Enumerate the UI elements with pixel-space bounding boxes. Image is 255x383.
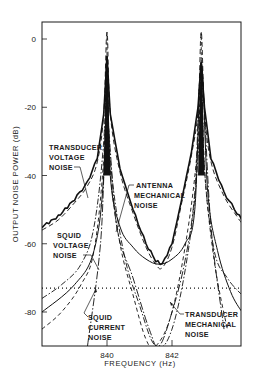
svg-text:NOISE: NOISE xyxy=(49,163,73,172)
svg-text:MECHANICAL: MECHANICAL xyxy=(134,191,186,200)
y-axis: 0-20-40-60-80 xyxy=(24,35,47,317)
y-tick-label: -20 xyxy=(24,103,36,112)
annotation-transducer-mechanical-noise: TRANSDUCER MECHANICAL NOISE xyxy=(170,302,239,339)
resonance-peak xyxy=(104,59,110,175)
noise-spectrum-chart: 0-20-40-60-80 840842 OUTPUT NOISE POWER … xyxy=(0,0,255,383)
svg-text:VOLTAGE: VOLTAGE xyxy=(53,241,89,250)
y-axis-title: OUTPUT NOISE POWER (dB) xyxy=(11,126,20,243)
y-tick-label: 0 xyxy=(32,35,37,44)
svg-text:SQUID: SQUID xyxy=(57,231,81,240)
annotation-squid-current-noise: SQUID CURRENT NOISE xyxy=(84,289,126,342)
svg-text:MECHANICAL: MECHANICAL xyxy=(185,320,237,329)
svg-text:ANTENNA: ANTENNA xyxy=(136,181,173,190)
svg-text:NOISE: NOISE xyxy=(134,201,158,210)
x-axis-title: FREQUENCY (Hz) xyxy=(104,359,176,368)
svg-text:NOISE: NOISE xyxy=(185,330,209,339)
svg-text:NOISE: NOISE xyxy=(88,333,112,342)
x-axis: 840842 xyxy=(100,340,179,360)
y-tick-label: -40 xyxy=(24,172,36,181)
svg-text:CURRENT: CURRENT xyxy=(88,323,126,332)
svg-text:TRANSDUCER: TRANSDUCER xyxy=(49,143,103,152)
svg-text:VOLTAGE: VOLTAGE xyxy=(49,153,85,162)
svg-text:SQUID: SQUID xyxy=(88,313,112,322)
svg-text:NOISE: NOISE xyxy=(53,251,77,260)
svg-text:TRANSDUCER: TRANSDUCER xyxy=(185,310,239,319)
y-tick-label: -80 xyxy=(24,308,36,317)
y-tick-label: -60 xyxy=(24,240,36,249)
